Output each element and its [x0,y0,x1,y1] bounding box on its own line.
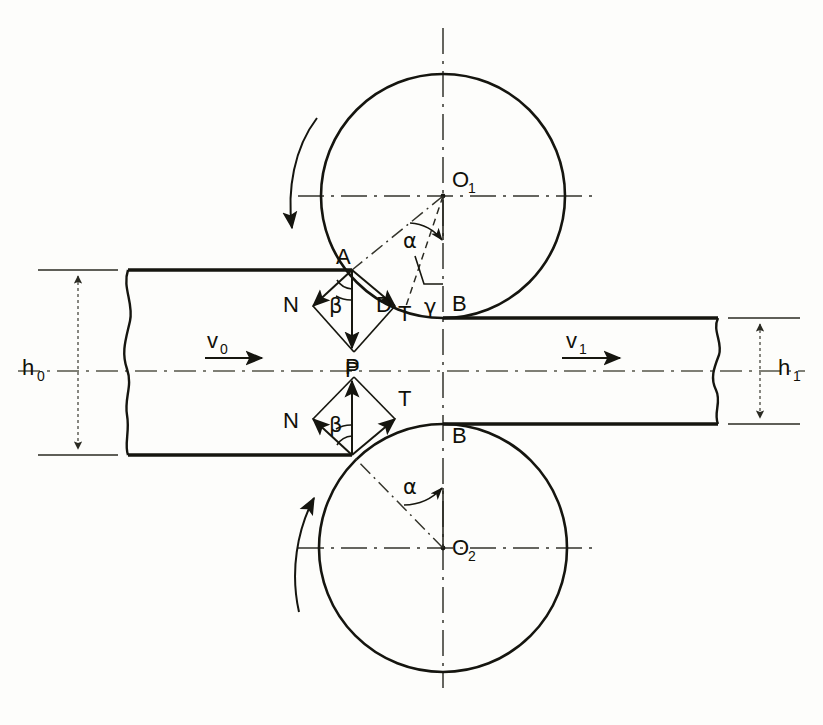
lower-exit-contact-label-B: B [452,423,467,448]
lower-roll-center-label: O [452,535,469,560]
lower-normal-force-label-N: N [283,408,299,433]
lower-radius-O2-A [352,455,443,548]
upper-roll-rotation-arrow [290,118,317,228]
exit-velocity-label: v [566,328,577,353]
exit-thickness-label: h [778,355,790,380]
neutral-angle-gamma-bracket [415,256,443,284]
strip-right-break-line [713,318,720,424]
upper-tangential-force-label-T: T [398,301,411,326]
exit-contact-label-B: B [452,291,467,316]
entry-thickness-dimension [38,270,118,455]
lower-resultant-force-label-P: P [345,357,360,382]
entry-thickness-subscript: 0 [37,368,45,384]
slab-left-break-line [124,270,131,455]
entry-contact-label-A: A [336,244,351,269]
lower-friction-angle-label-beta: β [329,413,342,437]
upper-radius-O1-A [352,196,443,270]
neutral-point-label-D: D [376,292,392,317]
neutral-angle-label-gamma: γ [424,295,436,319]
rolling-diagram-svg: O 1 O 2 A B B D α γ α N T P β N T P β v … [0,0,823,725]
lower-roll-center-subscript: 2 [468,548,476,564]
upper-roll-center-subscript: 1 [468,180,476,196]
lower-force-parallelogram [313,377,395,455]
exit-thickness-subscript: 1 [793,368,801,384]
lower-angle-construction [352,455,443,548]
entry-thickness-label: h [22,355,34,380]
upper-roll-center-label: O [452,167,469,192]
upper-friction-angle-label-beta: β [329,294,342,318]
lower-roll-rotation-arrow [295,498,314,612]
centre-lines-group [18,28,805,688]
rolling-diagram-root: O 1 O 2 A B B D α γ α N T P β N T P β v … [0,0,823,725]
upper-normal-force-label-N: N [283,292,299,317]
workpiece-group [124,270,720,455]
exit-velocity-subscript: 1 [579,341,587,357]
entry-velocity-label: v [207,328,218,353]
bite-angle-label-alpha: α [403,229,417,253]
entry-velocity-subscript: 0 [220,341,228,357]
lower-tangential-force-label-T: T [398,386,411,411]
lower-parallelogram-side-T-P [354,377,395,419]
lower-bite-angle-label-alpha: α [403,475,417,499]
